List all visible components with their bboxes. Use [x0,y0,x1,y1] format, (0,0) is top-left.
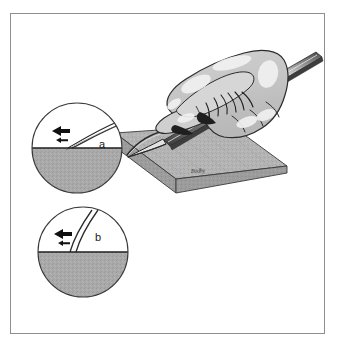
inset-circle-b [38,207,128,297]
figure-root: a b Bodhy [0,0,338,346]
tissue-slab-group [115,125,287,193]
hand-group [156,50,288,137]
inset-label-b: b [95,232,101,243]
illustration-canvas [0,0,338,346]
inset-label-a: a [99,139,105,150]
inset-circle-a [32,103,122,193]
artist-signature: Bodhy [191,167,205,174]
